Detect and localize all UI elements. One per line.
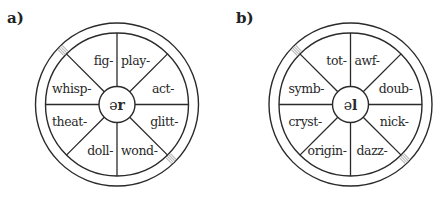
segment-lower-left: theat- [52, 114, 87, 129]
segment-upper-right: act- [152, 81, 174, 96]
wheel-b: əl tot- awf- doub- nick- dazz- origin- c… [269, 23, 432, 186]
hub-ending: ər [109, 97, 125, 113]
word-wheels-figure: a) b) [0, 0, 446, 198]
segment-top-right: play- [121, 53, 150, 68]
segment-top-right: awf- [355, 53, 380, 68]
segment-lower-right: glitt- [150, 114, 178, 129]
segment-lower-right: nick- [380, 114, 409, 129]
segment-upper-left: whisp- [52, 81, 91, 96]
segment-upper-left: symb- [289, 81, 325, 96]
hub-ending: əl [344, 97, 358, 113]
segment-bottom-left: origin- [308, 143, 347, 158]
segment-upper-right: doub- [379, 81, 413, 96]
segment-bottom-left: doll- [87, 143, 113, 158]
segment-lower-left: cryst- [289, 114, 322, 129]
segment-bottom-right: dazz- [357, 143, 388, 158]
segment-bottom-right: wond- [121, 143, 158, 158]
segment-top-left: fig- [94, 53, 113, 68]
wheels-canvas: ər fig- play- act- glitt- wond- doll- th… [0, 0, 446, 198]
segment-top-left: tot- [326, 53, 346, 68]
wheel-a: ər fig- play- act- glitt- wond- doll- th… [36, 23, 199, 186]
